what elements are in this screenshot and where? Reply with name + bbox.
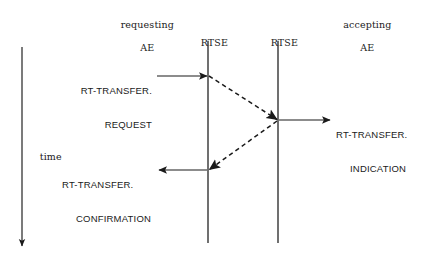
accepting-ae-label-line1: accepting <box>343 19 391 30</box>
rt-transfer-confirmation-line2: CONFIRMATION <box>62 213 160 224</box>
rt-transfer-request-line2: REQUEST <box>40 119 152 130</box>
message-label-rt-transfer-indication: RT-TRANSFER. INDICATION <box>336 107 422 197</box>
rt-transfer-indication-line2: INDICATION <box>336 163 422 174</box>
lifeline-label-rtse-right: RTSE <box>253 26 303 60</box>
arrow-rtse-peer-transfer-down <box>209 76 277 120</box>
message-label-rt-transfer-confirmation: RT-TRANSFER. CONFIRMATION <box>62 157 160 247</box>
rt-transfer-request-line1: RT-TRANSFER. <box>40 85 152 96</box>
rt-transfer-confirmation-line1: RT-TRANSFER. <box>62 179 160 190</box>
time-label-text: time <box>40 151 62 162</box>
lifeline-label-requesting-ae: requesting AE <box>105 8 177 64</box>
accepting-ae-label-line2: AE <box>360 42 374 53</box>
message-label-rt-transfer-request: RT-TRANSFER. REQUEST <box>40 63 152 153</box>
sequence-diagram: requesting AE RTSE RTSE accepting AE tim… <box>0 0 422 258</box>
lifeline-label-accepting-ae: accepting AE <box>325 8 397 64</box>
lifeline-label-rtse-left: RTSE <box>183 26 233 60</box>
arrow-rtse-peer-transfer-up <box>210 121 278 170</box>
rt-transfer-indication-line1: RT-TRANSFER. <box>336 129 422 140</box>
rtse-left-label: RTSE <box>201 37 228 48</box>
rtse-right-label: RTSE <box>271 37 298 48</box>
requesting-ae-label-line2: AE <box>140 42 154 53</box>
requesting-ae-label-line1: requesting <box>121 19 174 30</box>
